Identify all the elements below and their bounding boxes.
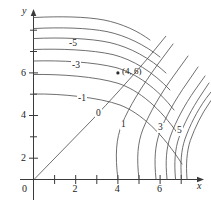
contour-label-neg3: -3 — [71, 61, 81, 71]
contour-curve-neg5 — [34, 38, 166, 73]
origin-label: 0 — [22, 184, 27, 194]
contour-curve-neg4 — [34, 49, 170, 90]
y-axis-arrow-icon — [31, 9, 37, 16]
contour-label-neg1: -1 — [77, 94, 87, 104]
contour-label-1: 1 — [120, 120, 127, 130]
point-label-4-6: (4, 6) — [122, 67, 142, 76]
contour-label-neg5: -5 — [68, 39, 78, 49]
contour-label-0: 0 — [95, 109, 102, 119]
contour-label-3: 3 — [157, 123, 164, 133]
contours-positive-group — [116, 44, 211, 179]
contour-curve-neg3 — [34, 61, 174, 110]
y-tick-label-6: 6 — [21, 68, 26, 78]
contour-label-5: 5 — [176, 126, 183, 136]
point-marker-4-6 — [116, 71, 119, 74]
contour-curve-2 — [138, 56, 188, 179]
y-axis-label: y — [22, 6, 26, 16]
contour-plot-figure: y x 0 2 4 6 2 4 6 -5 -3 -1 0 1 3 5 (4, 6… — [0, 0, 211, 218]
y-tick-label-4: 4 — [21, 110, 26, 120]
plot-canvas — [0, 0, 211, 218]
x-axis-label: x — [197, 181, 201, 191]
contour-curve-neg6 — [34, 28, 160, 57]
contour-curve-neg7 — [34, 17, 150, 40]
contours-negative-group — [34, 17, 182, 164]
x-tick-label-6: 6 — [157, 184, 162, 194]
x-tick-label-4: 4 — [115, 184, 120, 194]
contour-curve-4 — [166, 76, 205, 179]
x-tick-label-2: 2 — [73, 184, 78, 194]
y-tick-label-2: 2 — [21, 153, 26, 163]
contour-curve-1 — [116, 44, 173, 179]
